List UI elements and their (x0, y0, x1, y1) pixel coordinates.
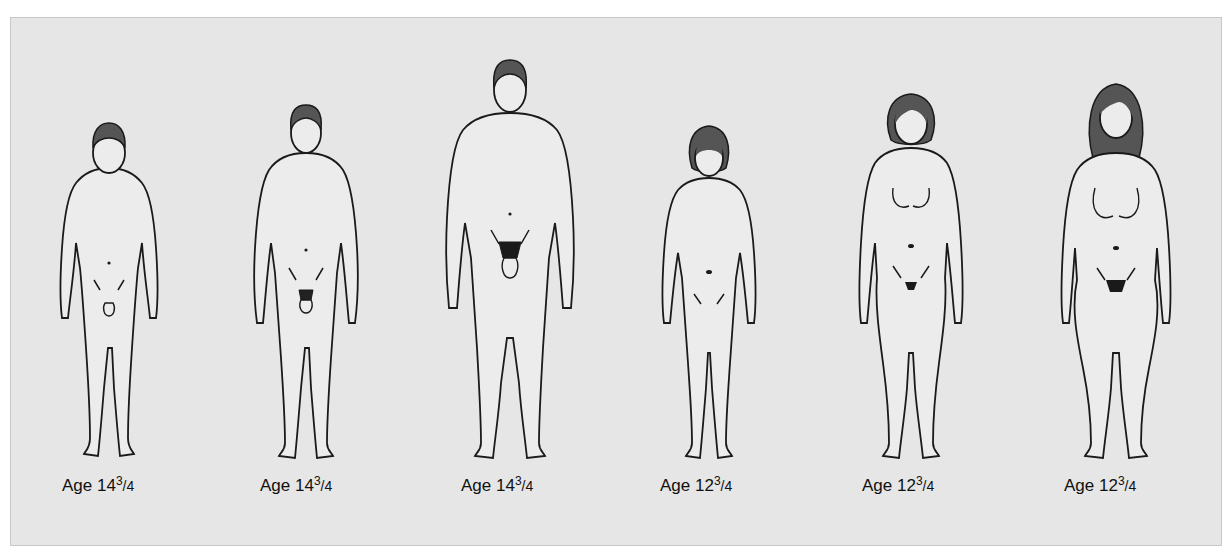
age-whole: 14 (496, 476, 515, 495)
age-label-female-3: Age 123/4 (1064, 474, 1136, 496)
female-body-illustration (654, 18, 764, 468)
age-fraction-denominator: 4 (525, 478, 533, 494)
age-whole: 12 (1099, 476, 1118, 495)
age-whole: 12 (695, 476, 714, 495)
figure-panel: Age 143/4 Age 143/4 Age 143/4 Age 123/4 … (10, 17, 1222, 546)
age-fraction-numerator: 3 (515, 474, 522, 488)
age-fraction-numerator: 3 (314, 474, 321, 488)
female-body-illustration (851, 18, 971, 468)
age-fraction-numerator: 3 (116, 474, 123, 488)
age-label-male-2: Age 143/4 (260, 474, 332, 496)
age-fraction-denominator: 4 (1128, 478, 1136, 494)
label-prefix: Age (862, 476, 892, 495)
label-prefix: Age (260, 476, 290, 495)
label-prefix: Age (461, 476, 491, 495)
age-label-male-1: Age 143/4 (62, 474, 134, 496)
age-fraction-numerator: 3 (1118, 474, 1125, 488)
age-label-female-2: Age 123/4 (862, 474, 934, 496)
age-label-male-3: Age 143/4 (461, 474, 533, 496)
age-fraction-numerator: 3 (714, 474, 721, 488)
age-fraction-denominator: 4 (724, 478, 732, 494)
age-fraction-denominator: 4 (324, 478, 332, 494)
male-body-illustration (445, 18, 575, 468)
label-prefix: Age (660, 476, 690, 495)
age-whole: 12 (897, 476, 916, 495)
age-fraction-denominator: 4 (126, 478, 134, 494)
age-whole: 14 (97, 476, 116, 495)
label-prefix: Age (62, 476, 92, 495)
age-fraction-numerator: 3 (916, 474, 923, 488)
age-whole: 14 (295, 476, 314, 495)
age-fraction-denominator: 4 (926, 478, 934, 494)
age-label-female-1: Age 123/4 (660, 474, 732, 496)
male-body-illustration (54, 18, 164, 468)
label-prefix: Age (1064, 476, 1094, 495)
male-body-illustration (251, 18, 361, 468)
female-body-illustration (1051, 18, 1181, 468)
